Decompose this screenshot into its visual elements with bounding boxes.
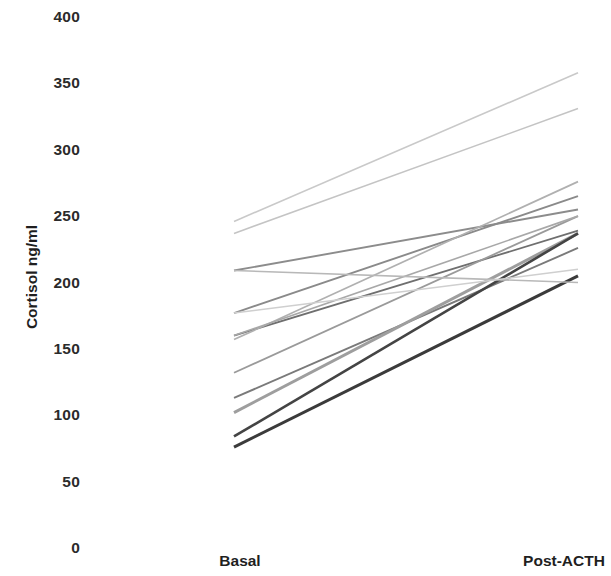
series-layer [234,73,578,447]
cortisol-paired-line-chart: 400350300250200150100500 Cortisol ng/ml … [0,0,611,576]
x-tick-label-basal: Basal [178,553,302,569]
series-line [234,233,578,436]
y-axis-title: Cortisol ng/ml [23,197,41,357]
series-line [234,73,578,222]
series-line [234,196,578,313]
y-tick-label: 0 [34,540,80,556]
y-tick-label: 350 [34,75,80,91]
y-tick-label: 300 [34,142,80,158]
x-tick-label-post-acth: Post-ACTH [494,553,611,569]
series-line [234,276,578,447]
plot-area [0,0,611,576]
series-line [234,231,578,336]
y-tick-label: 400 [34,9,80,25]
y-tick-label: 50 [34,474,80,490]
y-tick-label: 100 [34,407,80,423]
